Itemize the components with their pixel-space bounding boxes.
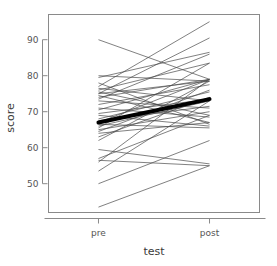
x-tick-label-pre: pre: [91, 228, 106, 238]
y-axis-title: score: [4, 103, 17, 133]
y-tick-label: 70: [27, 107, 39, 117]
chart-background: [0, 0, 277, 266]
chart-root: 5060708090 prepost score test: [0, 0, 277, 266]
x-tick-label-post: post: [200, 228, 220, 238]
y-tick-label: 80: [27, 71, 39, 81]
x-axis-title: test: [143, 245, 165, 258]
y-tick-label: 50: [27, 179, 39, 189]
y-tick-label: 90: [27, 35, 39, 45]
paired-line-chart: 5060708090 prepost score test: [0, 0, 277, 266]
y-tick-label: 60: [27, 143, 39, 153]
